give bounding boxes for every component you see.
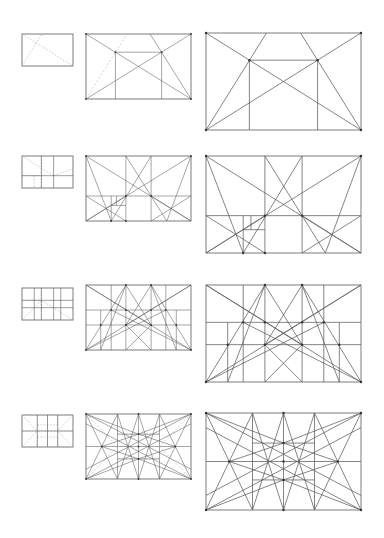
construction-dashed-line bbox=[86, 447, 118, 480]
intersection-node bbox=[150, 284, 152, 286]
intersection-node bbox=[165, 309, 167, 311]
intersection-node bbox=[175, 324, 177, 326]
construction-line bbox=[265, 285, 361, 345]
construction-line bbox=[206, 413, 284, 443]
intersection-node bbox=[150, 195, 152, 197]
panel-stage-3-large bbox=[205, 284, 362, 383]
intersection-node bbox=[205, 155, 207, 157]
construction-line bbox=[206, 156, 243, 253]
intersection-node bbox=[150, 324, 152, 326]
panel-stage-4-small bbox=[22, 415, 73, 447]
intersection-node bbox=[100, 324, 102, 326]
intersection-node bbox=[190, 349, 192, 351]
construction-line bbox=[265, 156, 325, 253]
intersection-node bbox=[282, 442, 284, 444]
intersection-node bbox=[110, 220, 112, 222]
intersection-node bbox=[282, 412, 284, 414]
intersection-node bbox=[110, 309, 112, 311]
intersection-node bbox=[301, 284, 303, 286]
intersection-node bbox=[228, 460, 230, 462]
intersection-node bbox=[125, 284, 127, 286]
construction-line bbox=[325, 156, 361, 253]
intersection-node bbox=[282, 509, 284, 511]
intersection-node bbox=[138, 446, 140, 448]
construction-dashed-line bbox=[22, 300, 41, 320]
construction-dashed-line bbox=[41, 300, 73, 320]
intersection-node bbox=[264, 284, 266, 286]
construction-dashed-line bbox=[86, 34, 127, 99]
intersection-node bbox=[85, 33, 87, 35]
construction-line bbox=[86, 285, 151, 325]
construction-dashed-line bbox=[22, 415, 37, 431]
panel-stage-3-small bbox=[22, 288, 73, 320]
construction-dashed-line bbox=[58, 431, 73, 447]
construction-line bbox=[206, 480, 284, 510]
intersection-node bbox=[282, 460, 284, 462]
construction-line bbox=[86, 459, 139, 479]
intersection-node bbox=[282, 479, 284, 481]
intersection-node bbox=[360, 155, 362, 157]
intersection-node bbox=[138, 433, 140, 435]
intersection-node bbox=[125, 324, 127, 326]
construction-line bbox=[111, 156, 151, 221]
intersection-node bbox=[190, 155, 192, 157]
intersection-node bbox=[85, 413, 87, 415]
intersection-node bbox=[360, 381, 362, 383]
construction-line bbox=[301, 33, 361, 130]
intersection-node bbox=[264, 214, 266, 216]
intersection-node bbox=[85, 98, 87, 100]
construction-line bbox=[150, 34, 191, 99]
intersection-node bbox=[360, 32, 362, 34]
panel-stage-2-large bbox=[205, 155, 362, 254]
intersection-node bbox=[138, 458, 140, 460]
intersection-node bbox=[138, 478, 140, 480]
intersection-node bbox=[242, 252, 244, 254]
intersection-node bbox=[125, 195, 127, 197]
construction-dashed-line bbox=[58, 415, 73, 431]
panel-stage-1-small bbox=[22, 34, 73, 66]
intersection-node bbox=[205, 381, 207, 383]
construction-line bbox=[206, 33, 266, 130]
intersection-node bbox=[115, 51, 117, 53]
intersection-node bbox=[205, 412, 207, 414]
intersection-node bbox=[138, 413, 140, 415]
construction-line bbox=[206, 285, 302, 345]
intersection-node bbox=[205, 129, 207, 131]
construction-line bbox=[243, 156, 302, 253]
intersection-node bbox=[360, 509, 362, 511]
intersection-node bbox=[150, 309, 152, 311]
intersection-node bbox=[174, 446, 176, 448]
intersection-node bbox=[301, 321, 303, 323]
intersection-node bbox=[85, 155, 87, 157]
intersection-node bbox=[338, 343, 340, 345]
construction-dashed-line bbox=[22, 34, 73, 66]
construction-line bbox=[139, 414, 192, 434]
intersection-node bbox=[190, 478, 192, 480]
intersection-node bbox=[101, 446, 103, 448]
intersection-node bbox=[242, 321, 244, 323]
intersection-node bbox=[190, 98, 192, 100]
intersection-node bbox=[125, 220, 127, 222]
intersection-node bbox=[360, 129, 362, 131]
intersection-node bbox=[125, 309, 127, 311]
intersection-node bbox=[264, 252, 266, 254]
panel-stage-4-large bbox=[205, 412, 362, 511]
construction-line bbox=[126, 156, 167, 221]
panel-stage-1-large bbox=[205, 32, 362, 131]
construction-dashed-line bbox=[22, 156, 54, 176]
construction-dashed-line bbox=[22, 431, 37, 447]
construction-dashed-line bbox=[160, 414, 192, 447]
panel-stage-2-medium bbox=[85, 155, 192, 222]
construction-line bbox=[151, 285, 176, 350]
construction-line bbox=[101, 285, 126, 350]
intersection-node bbox=[227, 343, 229, 345]
intersection-node bbox=[337, 460, 339, 462]
intersection-node bbox=[190, 413, 192, 415]
construction-line bbox=[284, 480, 362, 510]
intersection-node bbox=[264, 343, 266, 345]
construction-line bbox=[228, 285, 265, 382]
intersection-node bbox=[248, 59, 250, 61]
construction-line bbox=[86, 414, 139, 434]
intersection-node bbox=[360, 412, 362, 414]
construction-line bbox=[167, 156, 191, 221]
